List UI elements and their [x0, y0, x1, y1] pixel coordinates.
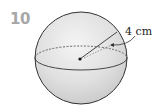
sphere-diagram [0, 0, 162, 112]
center-point [78, 57, 81, 60]
radius-label: 4 cm [125, 25, 152, 38]
